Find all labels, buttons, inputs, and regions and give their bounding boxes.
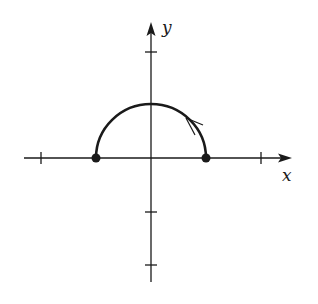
endpoint-right [202, 154, 211, 163]
y-axis: y [145, 17, 172, 282]
plot-canvas: x y [0, 0, 318, 304]
semicircle-diagram: x y [0, 0, 318, 304]
endpoint-left [92, 154, 101, 163]
x-axis: x [24, 152, 292, 185]
y-axis-label: y [161, 17, 172, 37]
x-axis-label: x [282, 165, 292, 185]
